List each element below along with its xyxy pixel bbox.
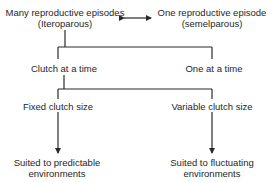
node-semelparous: One reproductive episode (semelparous) xyxy=(158,7,267,29)
node-iteroparous: Many reproductive episodes (Iteroparous) xyxy=(6,7,125,29)
node-iteroparous-line1: Many reproductive episodes xyxy=(6,7,125,18)
node-predictable-environments: Suited to predictable environments xyxy=(14,157,101,179)
node-predictable-line2: environments xyxy=(14,168,101,179)
node-semelparous-line1: One reproductive episode xyxy=(158,7,267,18)
node-predictable-line1: Suited to predictable xyxy=(14,157,101,168)
node-fluctuating-line2: environments xyxy=(170,168,253,179)
node-iteroparous-line2: (Iteroparous) xyxy=(6,18,125,29)
node-fixed-clutch-size: Fixed clutch size xyxy=(23,101,93,112)
node-fluctuating-environments: Suited to fluctuating environments xyxy=(170,157,253,179)
node-semelparous-line2: (semelparous) xyxy=(158,18,267,29)
node-variable-clutch-size: Variable clutch size xyxy=(171,101,252,112)
node-fluctuating-line1: Suited to fluctuating xyxy=(170,157,253,168)
node-clutch-at-a-time: Clutch at a time xyxy=(31,63,97,74)
bracket-level-2 xyxy=(58,75,212,99)
node-one-at-a-time: One at a time xyxy=(185,63,242,74)
bracket-level-1 xyxy=(58,30,212,59)
